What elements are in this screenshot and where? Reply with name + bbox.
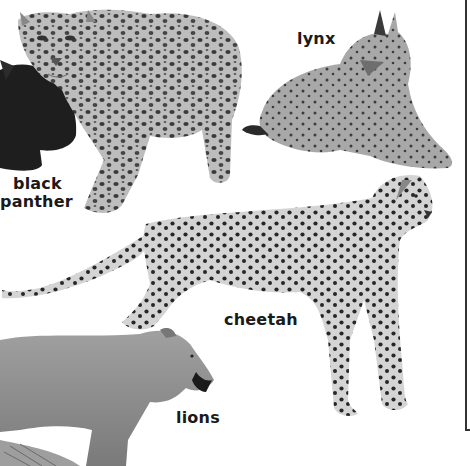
label-black-panther-line1: black: [12, 175, 73, 193]
page-border-line: [465, 0, 467, 430]
label-cheetah: cheetah: [224, 311, 298, 329]
label-black-panther-line2: panther: [0, 193, 73, 211]
label-black-panther: black panther: [12, 175, 73, 211]
label-lions: lions: [176, 409, 220, 427]
page-border-foot: [465, 429, 470, 431]
label-lynx: lynx: [297, 30, 335, 48]
lion-figure: [0, 328, 214, 466]
lynx-figure: [242, 10, 452, 168]
